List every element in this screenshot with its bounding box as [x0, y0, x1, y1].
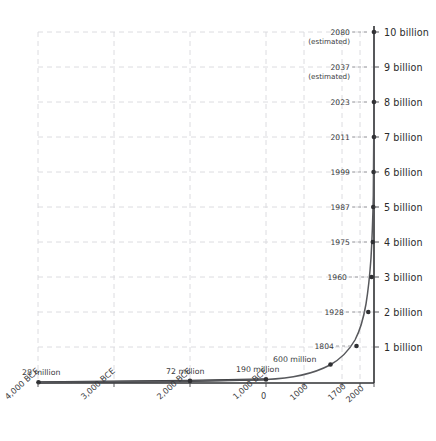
year-note-2080: (estimated) — [308, 37, 350, 46]
dot-28-million — [36, 380, 41, 385]
year-label-1960: 1960 — [327, 273, 347, 282]
y-label-9-billion: 9 billion — [384, 62, 423, 73]
y-label-2-billion: 2 billion — [384, 307, 423, 318]
year-label-2080: 2080 — [330, 28, 350, 37]
year-label-2037: 2037 — [330, 63, 350, 72]
y-label-8-billion: 8 billion — [384, 97, 423, 108]
y-label-5-billion: 5 billion — [384, 202, 423, 213]
dot-1-billion — [354, 344, 359, 349]
year-note-2037: (estimated) — [308, 72, 350, 81]
year-label-2011: 2011 — [330, 133, 350, 142]
y-label-1-billion: 1 billion — [384, 342, 423, 353]
year-label-2023: 2023 — [330, 98, 350, 107]
y-label-7-billion: 7 billion — [384, 132, 423, 143]
y-label-4-billion: 4 billion — [384, 237, 423, 248]
year-label-1975: 1975 — [330, 238, 350, 247]
year-label-1999: 1999 — [330, 168, 350, 177]
year-label-1987: 1987 — [330, 203, 350, 212]
dot-600-million — [328, 362, 333, 367]
chart-background — [0, 0, 436, 441]
population-growth-chart: 10 billion 9 billion 8 billion 7 billion… — [0, 0, 436, 441]
dot-3-billion — [369, 275, 374, 280]
year-label-1804: 1804 — [314, 342, 334, 351]
annot-600-million: 600 million — [273, 355, 316, 364]
y-label-3-billion: 3 billion — [384, 272, 423, 283]
dot-190-million — [264, 377, 269, 382]
y-label-10-billion: 10 billion — [384, 27, 429, 38]
year-label-1928: 1928 — [324, 308, 344, 317]
dot-2-billion — [366, 310, 371, 315]
x-label-0: 0 — [261, 391, 266, 401]
dot-72-million — [188, 379, 193, 384]
y-label-6-billion: 6 billion — [384, 167, 423, 178]
chart-canvas: 10 billion 9 billion 8 billion 7 billion… — [0, 0, 436, 441]
